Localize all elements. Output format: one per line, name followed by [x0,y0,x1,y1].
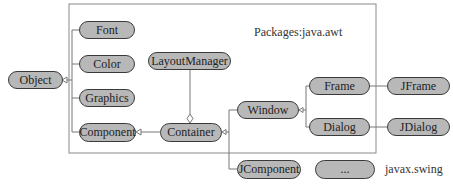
node-color: Color [79,55,135,73]
node-ellipsis: ... [315,160,375,179]
node-jframe: JFrame [387,77,450,95]
package-swing-label: javax.swing [385,162,443,177]
node-graphics: Graphics [79,89,135,107]
connector-lines [0,0,453,184]
package-awt-label: Packages:java.awt [254,25,342,40]
node-component: Component [79,123,136,142]
inheritance-arrow-icon [136,129,141,135]
node-window: Window [237,101,299,119]
inheritance-arrow-icon [222,130,226,135]
node-font: Font [79,21,135,39]
aggregation-diamond-icon [187,114,193,123]
node-dialog: Dialog [309,118,370,136]
inheritance-arrow-icon [299,108,303,113]
node-jcomponent: JComponent [237,160,301,179]
node-jdialog: JDialog [387,118,450,136]
node-layout-manager: LayoutManager [148,52,231,70]
node-object: Object [8,71,63,89]
node-container: Container [160,123,222,142]
node-frame: Frame [309,77,370,95]
